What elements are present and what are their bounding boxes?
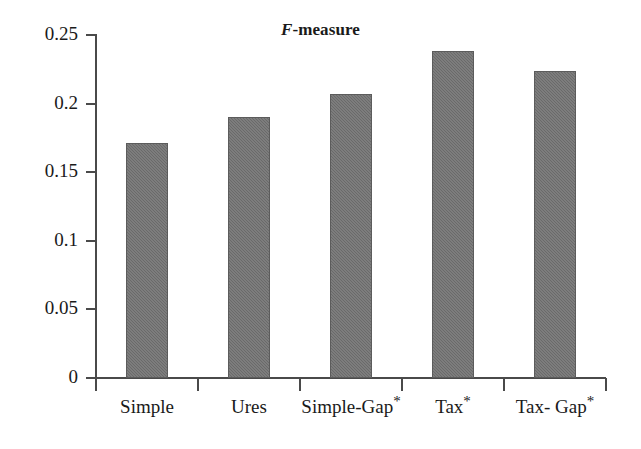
chart-title-rest: -measure (292, 20, 360, 39)
category-label-text: Ures (231, 396, 267, 417)
category-label-text: Tax- Gap (516, 396, 587, 417)
y-tick-0-15: 0.15 (0, 171, 96, 173)
bar-chart: F-measure 0.250.20.150.10.050 SimpleUres… (0, 0, 641, 449)
asterisk-icon: * (463, 393, 471, 409)
category-label-simple: Simple (96, 396, 198, 418)
category-label-text: Tax (435, 396, 463, 417)
y-tick-0-05: 0.05 (0, 308, 96, 310)
x-tick-mark (299, 378, 301, 391)
x-tick-mark (401, 378, 403, 391)
y-tick-label: 0.25 (16, 24, 78, 43)
bar-tax-gap (534, 71, 576, 378)
y-tick-mark (86, 34, 96, 36)
y-tick-label: 0.2 (16, 93, 78, 112)
y-tick-0-2: 0.2 (0, 103, 96, 105)
y-tick-label: 0.1 (16, 230, 78, 249)
x-tick-mark (95, 378, 97, 391)
category-label-ures: Ures (198, 396, 300, 418)
bar-simple-gap (330, 94, 372, 378)
category-label-text: Simple-Gap (301, 396, 393, 417)
y-tick-0: 0 (0, 377, 96, 379)
category-label-text: Simple (120, 396, 174, 417)
y-tick-mark (86, 103, 96, 105)
y-tick-label: 0.05 (16, 298, 78, 317)
y-tick-label: 0.15 (16, 161, 78, 180)
y-tick-mark (86, 171, 96, 173)
asterisk-icon: * (587, 393, 595, 409)
chart-title-italic-part: F (281, 20, 292, 39)
x-tick-mark (605, 378, 607, 391)
bar-ures (228, 117, 270, 378)
y-axis-line (95, 34, 97, 379)
y-tick-label: 0 (16, 367, 78, 386)
y-tick-0-25: 0.25 (0, 34, 96, 36)
y-tick-0-1: 0.1 (0, 240, 96, 242)
y-tick-mark (86, 308, 96, 310)
category-label-simple-gap: Simple-Gap* (300, 396, 402, 418)
x-tick-mark (503, 378, 505, 391)
x-tick-mark (197, 378, 199, 391)
bar-simple (126, 143, 168, 378)
category-label-tax-gap: Tax- Gap* (504, 396, 606, 418)
asterisk-icon: * (393, 393, 401, 409)
y-tick-mark (86, 240, 96, 242)
bar-tax (432, 51, 474, 378)
category-label-tax: Tax* (402, 396, 504, 418)
